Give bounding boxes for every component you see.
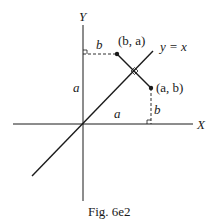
line-label: y = x xyxy=(158,39,187,54)
segment-label-bottom-a: a xyxy=(114,106,121,121)
segment-label-right-b: b xyxy=(154,102,161,117)
right-angle-mark-y-axis xyxy=(83,50,87,54)
figure-caption: Fig. 6e2 xyxy=(88,204,131,219)
y-axis-label: Y xyxy=(79,9,88,24)
point-b-a-label: (b, a) xyxy=(118,33,145,48)
point-a-b-label: (a, b) xyxy=(156,80,183,95)
reflection-diagram: Y X y = x (b, a) (a, b) b a a b Fig. 6e2 xyxy=(0,0,220,221)
point-b-a xyxy=(115,52,119,56)
right-angle-mark-x-axis xyxy=(147,120,151,124)
segment-label-top-b: b xyxy=(96,37,103,52)
point-a-b xyxy=(149,86,153,90)
segment-label-left-a: a xyxy=(73,80,80,95)
x-axis-label: X xyxy=(196,117,206,132)
line-y-equals-x xyxy=(32,51,153,176)
